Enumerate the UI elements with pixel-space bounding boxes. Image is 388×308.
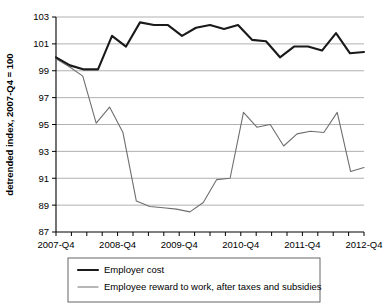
x-tick-label: 2010-Q4 [222,239,259,250]
y-tick-label: 95 [38,119,49,130]
y-tick-label: 103 [33,11,49,22]
legend-label-employee-reward: Employee reward to work, after taxes and… [104,281,322,292]
x-tick-label: 2009-Q4 [161,239,198,250]
x-tick-label: 2008-Q4 [99,239,136,250]
y-tick-label: 89 [38,200,49,211]
x-tick-label: 2011-Q4 [284,239,320,250]
chart-legend: Employer cost Employee reward to work, a… [68,258,322,302]
y-tick-label: 99 [38,65,49,76]
x-axis-ticks [56,232,364,236]
legend-label-employer-cost: Employer cost [104,264,165,275]
y-tick-label: 101 [33,38,49,49]
y-tick-label: 97 [38,92,49,103]
y-axis-title: detrended index, 2007-Q4 = 100 [4,53,15,195]
x-tick-label: 2012-Q4 [346,239,383,250]
y-tick-label: 87 [38,226,49,237]
y-tick-label: 91 [38,173,49,184]
x-tick-label: 2007-Q4 [38,239,75,250]
line-chart: 87899193959799101103 2007-Q42008-Q42009-… [0,0,388,308]
chart-figure: 87899193959799101103 2007-Q42008-Q42009-… [0,0,388,308]
y-tick-label: 93 [38,146,49,157]
